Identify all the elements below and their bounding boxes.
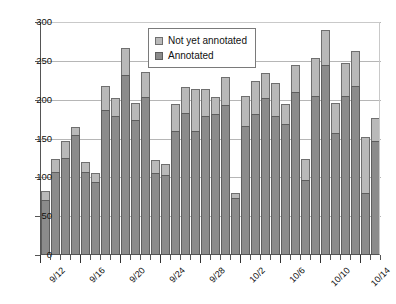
bar xyxy=(71,127,81,254)
bar-segment-not-yet-annotated xyxy=(91,173,100,182)
bar xyxy=(161,164,171,254)
bar-segment-annotated xyxy=(111,116,120,254)
x-axis-tick-mark xyxy=(370,255,371,260)
bar-segment-annotated xyxy=(291,92,300,254)
x-axis-tick-label: 10/14 xyxy=(370,266,392,288)
bar xyxy=(351,51,361,254)
y-axis-tick-mark xyxy=(35,61,40,62)
bar xyxy=(111,98,121,254)
y-axis-tick-label: 50 xyxy=(16,211,52,220)
bar-segment-not-yet-annotated xyxy=(321,30,330,66)
y-axis-tick-mark xyxy=(35,216,40,217)
bar-segment-annotated xyxy=(231,198,240,254)
bar xyxy=(171,104,181,254)
y-axis-tick-label: 200 xyxy=(16,95,52,104)
y-axis-tick-label: 150 xyxy=(16,134,52,143)
bar-segment-not-yet-annotated xyxy=(61,141,70,159)
bar xyxy=(101,86,111,254)
legend-label-not-yet-annotated: Not yet annotated xyxy=(168,35,247,46)
x-axis-tick-mark xyxy=(300,255,301,260)
bar-segment-not-yet-annotated xyxy=(311,58,320,95)
bar xyxy=(291,65,301,254)
bar-segment-not-yet-annotated xyxy=(351,51,360,87)
bar-segment-annotated xyxy=(351,86,360,254)
bar xyxy=(201,89,211,254)
bar xyxy=(51,159,61,254)
bar-segment-not-yet-annotated xyxy=(141,72,150,97)
bar xyxy=(231,193,241,254)
chart-legend: Not yet annotated Annotated xyxy=(148,28,256,68)
bar-segment-not-yet-annotated xyxy=(211,97,220,114)
x-axis-tick-mark xyxy=(380,255,381,260)
x-axis-tick-mark xyxy=(70,255,71,260)
bar-segment-not-yet-annotated xyxy=(371,118,380,141)
bar-segment-not-yet-annotated xyxy=(281,104,290,123)
x-axis-tick-label: 9/16 xyxy=(88,266,107,285)
bar-segment-annotated xyxy=(51,172,60,254)
x-axis-tick-mark xyxy=(100,255,101,260)
x-axis-tick-label: 9/28 xyxy=(208,266,227,285)
y-axis-tick-mark xyxy=(35,22,40,23)
legend-label-annotated: Annotated xyxy=(168,50,214,61)
x-axis-tick-mark xyxy=(50,255,51,260)
x-axis-tick-mark xyxy=(220,255,221,260)
bar xyxy=(61,141,71,254)
x-axis-tick-mark xyxy=(110,255,111,260)
bar-segment-not-yet-annotated xyxy=(121,48,130,75)
bar xyxy=(41,191,51,254)
bar-segment-annotated xyxy=(281,124,290,254)
bar-segment-annotated xyxy=(311,96,320,254)
bar-segment-annotated xyxy=(221,105,230,254)
x-axis-major-tick-mark xyxy=(40,255,41,263)
y-axis-tick-label: 100 xyxy=(16,172,52,181)
bar-segment-not-yet-annotated xyxy=(151,160,160,173)
x-axis-tick-mark xyxy=(90,255,91,260)
bar-segment-not-yet-annotated xyxy=(241,96,250,126)
bar xyxy=(301,159,311,254)
bar-segment-annotated xyxy=(301,180,310,254)
bar-segment-annotated xyxy=(321,65,330,254)
bar-segment-not-yet-annotated xyxy=(331,103,340,133)
bar-segment-not-yet-annotated xyxy=(221,77,230,105)
bar-segment-annotated xyxy=(251,114,260,254)
bar-segment-annotated xyxy=(91,182,100,254)
bar-segment-annotated xyxy=(201,116,210,254)
x-axis-tick-mark xyxy=(150,255,151,260)
x-axis-tick-mark xyxy=(290,255,291,260)
bar-segment-annotated xyxy=(71,135,80,254)
y-axis-tick-label: 0 xyxy=(16,250,52,259)
bar-segment-not-yet-annotated xyxy=(201,89,210,115)
x-axis-tick-mark xyxy=(190,255,191,260)
legend-item-not-yet-annotated: Not yet annotated xyxy=(155,33,247,48)
bar-segment-not-yet-annotated xyxy=(161,164,170,175)
bar-segment-annotated xyxy=(81,172,90,254)
x-axis-major-tick-mark xyxy=(160,255,161,263)
bar xyxy=(271,83,281,254)
bar xyxy=(321,30,331,254)
x-axis-tick-mark xyxy=(250,255,251,260)
bar-segment-annotated xyxy=(171,131,180,254)
bar-segment-not-yet-annotated xyxy=(71,127,80,136)
x-axis-tick-mark xyxy=(260,255,261,260)
bar-segment-not-yet-annotated xyxy=(291,65,300,92)
bar-segment-not-yet-annotated xyxy=(261,73,270,98)
x-axis-tick-label: 10/6 xyxy=(288,266,307,285)
bar-segment-annotated xyxy=(131,120,140,254)
bar-segment-annotated xyxy=(241,126,250,254)
bar-segment-not-yet-annotated xyxy=(111,98,120,116)
x-axis-major-tick-mark xyxy=(80,255,81,263)
bar xyxy=(261,73,271,254)
x-axis-tick-mark xyxy=(310,255,311,260)
bar-segment-annotated xyxy=(271,116,280,254)
bar xyxy=(361,137,371,254)
bar-segment-annotated xyxy=(61,158,70,254)
y-axis-tick-mark xyxy=(35,177,40,178)
x-axis-tick-mark xyxy=(60,255,61,260)
bar xyxy=(331,103,341,254)
bar xyxy=(141,72,151,254)
bar-segment-not-yet-annotated xyxy=(41,191,50,200)
x-axis-major-tick-mark xyxy=(200,255,201,263)
bar xyxy=(371,118,381,254)
bar-segment-not-yet-annotated xyxy=(361,137,370,194)
bar xyxy=(121,48,131,254)
